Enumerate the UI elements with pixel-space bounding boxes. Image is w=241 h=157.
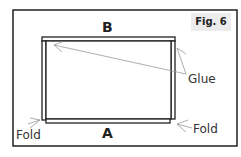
panel — [46, 41, 171, 119]
label-glue: Glue — [188, 73, 216, 85]
label-fold-left: Fold — [16, 129, 41, 141]
fold-arrow-left — [28, 120, 40, 124]
glue-arrow-right — [177, 48, 186, 74]
figure-label: Fig. 6 — [191, 13, 231, 31]
label-a: A — [102, 126, 113, 140]
flap-a — [46, 119, 170, 123]
label-b: B — [102, 20, 113, 34]
label-fold-right: Fold — [193, 123, 218, 135]
